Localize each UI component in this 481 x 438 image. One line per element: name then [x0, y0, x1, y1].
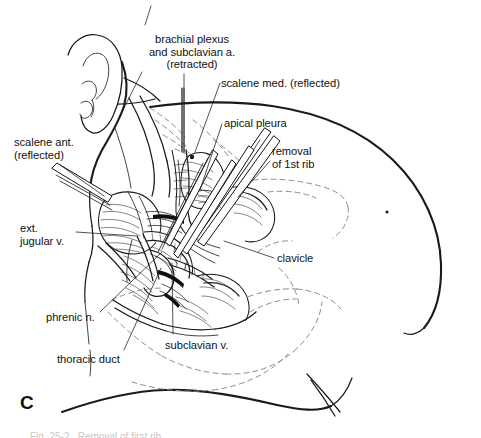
label-apical-pleura: apical pleura [224, 117, 314, 130]
label-ext-jugular-v: ext. jugular v. [20, 222, 90, 247]
vertical-probe [182, 88, 184, 152]
label-scalene-med: scalene med. (reflected) [221, 77, 361, 90]
leader-brachial-plexus-tick [145, 6, 151, 25]
leader-phrenic [100, 252, 162, 312]
label-subclavian-v: subclavian v. [165, 339, 255, 352]
leader-brachial-plexus-left [120, 72, 142, 116]
leader-subclavian-v [172, 263, 173, 334]
anatomical-figure: brachial plexus and subclavian a. (retra… [0, 0, 481, 438]
label-brachial-plexus: brachial plexus and subclavian a. (retra… [134, 33, 250, 71]
leader-clavicle [224, 241, 274, 258]
nipple-mark [386, 211, 389, 214]
shoulder-torso-outline [150, 102, 441, 334]
label-clavicle: clavicle [277, 252, 337, 265]
caption-clipped: Fig. 25-2. Removal of first rib ... [30, 431, 290, 438]
label-thoracic-duct: thoracic duct [57, 353, 147, 366]
label-phrenic-n: phrenic n. [46, 311, 116, 324]
label-scalene-ant: scalene ant. (reflected) [14, 136, 100, 161]
breast-contour [62, 374, 352, 416]
ear [68, 35, 122, 133]
figure-letter-label: C [20, 392, 34, 414]
label-removal-of-1st-rib: removal of 1st rib [272, 145, 352, 170]
